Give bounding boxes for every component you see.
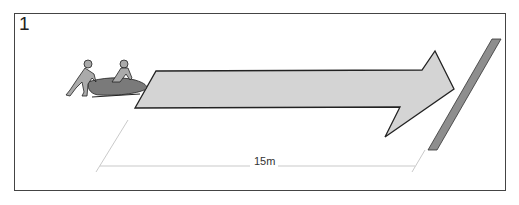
- distance-label: 15m: [252, 155, 277, 167]
- direction-arrow: [135, 51, 454, 137]
- diagram-canvas: [0, 0, 519, 205]
- dimension-start-tick: [96, 120, 128, 172]
- bobsled-team-icon: [66, 60, 147, 97]
- dimension-end-tick: [412, 150, 425, 172]
- athlete-driver-icon: [112, 60, 132, 82]
